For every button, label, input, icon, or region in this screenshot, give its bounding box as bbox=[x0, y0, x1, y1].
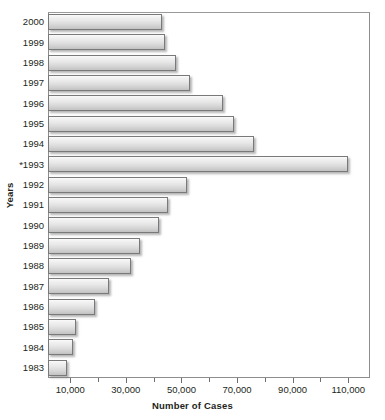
y-axis-label: 1988 bbox=[0, 261, 44, 271]
bars-layer bbox=[48, 12, 370, 378]
x-axis-tick-label: 50,000 bbox=[151, 384, 211, 395]
bar-row bbox=[48, 195, 370, 215]
x-axis-tick-label: 110,000 bbox=[318, 384, 378, 395]
bar-row bbox=[48, 215, 370, 235]
bar-row bbox=[48, 256, 370, 276]
x-axis-tick-label: 10,000 bbox=[40, 384, 100, 395]
x-axis-minor-tick bbox=[265, 378, 266, 382]
bar-chart: 2000199919981997199619951994*19931992199… bbox=[0, 0, 385, 420]
bar-row bbox=[48, 73, 370, 93]
bar-1988 bbox=[48, 258, 131, 274]
bar-1996 bbox=[48, 95, 223, 111]
y-axis-label: 1994 bbox=[0, 139, 44, 149]
bar-1994 bbox=[48, 136, 254, 152]
x-axis-minor-tick bbox=[320, 378, 321, 382]
x-axis-title: Number of Cases bbox=[0, 400, 385, 411]
y-axis-label: 1984 bbox=[0, 343, 44, 353]
x-axis-minor-tick bbox=[154, 378, 155, 382]
bar-row bbox=[48, 93, 370, 113]
bar-2000 bbox=[48, 14, 162, 30]
y-axis-label: 1986 bbox=[0, 302, 44, 312]
y-axis-label: 1996 bbox=[0, 99, 44, 109]
x-axis-major-tick bbox=[237, 378, 238, 383]
y-axis-label: 1987 bbox=[0, 282, 44, 292]
bar-row bbox=[48, 276, 370, 296]
x-axis-major-tick bbox=[293, 378, 294, 383]
x-axis-major-tick bbox=[70, 378, 71, 383]
bar-row bbox=[48, 53, 370, 73]
y-axis-label: 1983 bbox=[0, 363, 44, 373]
bar-1986 bbox=[48, 299, 95, 315]
bar-row bbox=[48, 337, 370, 357]
bar-1991 bbox=[48, 197, 168, 213]
x-axis-minor-tick bbox=[209, 378, 210, 382]
x-axis-tick-label: 70,000 bbox=[207, 384, 267, 395]
x-axis-major-tick bbox=[126, 378, 127, 383]
bar-1992 bbox=[48, 177, 187, 193]
y-axis-label: 1985 bbox=[0, 322, 44, 332]
bar-row bbox=[48, 297, 370, 317]
bar-1993 bbox=[48, 156, 348, 172]
x-axis-major-tick bbox=[181, 378, 182, 383]
bar-1997 bbox=[48, 75, 190, 91]
bar-1984 bbox=[48, 339, 73, 355]
bar-row bbox=[48, 236, 370, 256]
y-axis-label: 1999 bbox=[0, 38, 44, 48]
bar-row bbox=[48, 154, 370, 174]
bar-1985 bbox=[48, 319, 76, 335]
bar-row bbox=[48, 114, 370, 134]
x-axis-minor-tick bbox=[98, 378, 99, 382]
bar-1990 bbox=[48, 217, 159, 233]
x-axis-tick-label: 30,000 bbox=[96, 384, 156, 395]
y-axis-title: Years bbox=[4, 168, 15, 224]
y-axis-label: 1989 bbox=[0, 241, 44, 251]
x-axis-major-tick bbox=[348, 378, 349, 383]
x-axis-tick-label: 90,000 bbox=[263, 384, 323, 395]
bar-row bbox=[48, 358, 370, 378]
bar-1989 bbox=[48, 238, 140, 254]
y-axis-label: 1998 bbox=[0, 58, 44, 68]
bar-1987 bbox=[48, 278, 109, 294]
bar-1999 bbox=[48, 34, 165, 50]
y-axis-label: 2000 bbox=[0, 17, 44, 27]
bar-1983 bbox=[48, 360, 67, 376]
bar-1998 bbox=[48, 55, 176, 71]
bar-row bbox=[48, 317, 370, 337]
y-axis-label: 1995 bbox=[0, 119, 44, 129]
y-axis-label: 1997 bbox=[0, 78, 44, 88]
bar-row bbox=[48, 175, 370, 195]
bar-1995 bbox=[48, 116, 234, 132]
bar-row bbox=[48, 134, 370, 154]
bar-row bbox=[48, 32, 370, 52]
bar-row bbox=[48, 12, 370, 32]
